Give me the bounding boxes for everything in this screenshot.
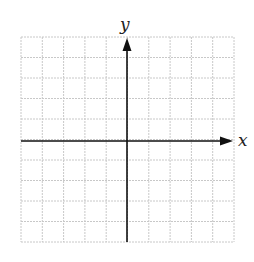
coordinate-grid: x y [0,0,254,262]
y-axis-label: y [119,14,130,34]
x-axis-arrow-icon [220,137,233,146]
y-axis-arrow-icon [123,38,132,51]
x-axis-label: x [238,130,248,150]
